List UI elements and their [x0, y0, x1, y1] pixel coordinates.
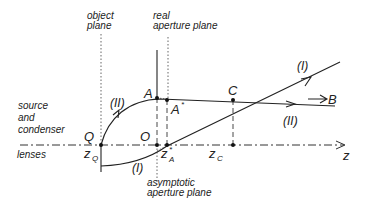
point-Q-label: Q [84, 129, 94, 144]
zC-label: z [208, 146, 216, 161]
ray-I-arrow [301, 77, 311, 86]
asymptotic-aperture-label-line2: aperture plane [147, 187, 212, 198]
point-Astar-dot [165, 98, 169, 102]
point-A-dot [155, 96, 159, 100]
ray-II-right-label: (II) [283, 114, 298, 128]
point-C-label: C [228, 83, 238, 98]
ray-II [101, 99, 335, 145]
source-label: source [18, 100, 48, 111]
lenses-label: lenses [17, 149, 46, 160]
zC-subscript: C [217, 154, 223, 163]
ray-I [101, 62, 340, 166]
field-B-arrow [308, 95, 327, 103]
and-label: and [18, 112, 35, 123]
zQ-subscript: Q [92, 154, 98, 163]
ray-I-top-label: (I) [297, 59, 308, 73]
zQ-label: z [83, 146, 91, 161]
point-Q-dot [99, 143, 103, 147]
z-axis-label: z [342, 148, 350, 163]
object-plane-label-line2: plane [86, 20, 112, 31]
zA-subscript: A [168, 155, 174, 164]
condenser-label: condenser [18, 124, 65, 135]
point-Astar-star: * [181, 100, 185, 109]
ray-I-bottom-label: (I) [132, 161, 143, 175]
zA-star: * [169, 145, 173, 154]
zA-label: z [160, 146, 168, 161]
point-C-dot [231, 98, 235, 102]
point-Astar-label: A [170, 102, 180, 117]
ray-II-left-label: (II) [110, 96, 125, 110]
point-O-dot [155, 143, 159, 147]
real-aperture-label-line2: aperture plane [153, 20, 218, 31]
point-zC-dot [231, 143, 235, 147]
electron-optics-diagram: object plane real aperture plane asympto… [0, 0, 367, 209]
point-A-label: A [143, 86, 153, 101]
point-O-label: O [140, 129, 150, 144]
field-B-label: B [328, 92, 337, 107]
